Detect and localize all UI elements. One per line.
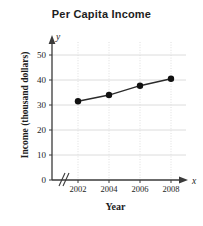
- y-axis-variable-label: y: [55, 32, 61, 42]
- horizontal-gridlines: [52, 55, 186, 155]
- chart-figure: Per Capita Income Income (thousand dolla…: [0, 0, 203, 226]
- plot-area: 0 10 20 30 40 50 2002 2004 2006 2008 y x: [0, 0, 203, 226]
- data-point-2002: [75, 98, 81, 104]
- data-point-2008: [168, 76, 174, 82]
- x-axis: [52, 177, 188, 184]
- y-tick-label-10: 10: [37, 150, 47, 160]
- y-axis: [49, 35, 56, 180]
- y-tick-label-0: 0: [42, 175, 47, 185]
- y-tick-label-20: 20: [37, 125, 47, 135]
- data-line-series: [78, 79, 171, 102]
- vertical-gridlines: [78, 42, 171, 180]
- x-tick-label-2008: 2008: [163, 184, 180, 194]
- data-point-2004: [106, 92, 112, 98]
- x-tick-label-2004: 2004: [101, 184, 119, 194]
- x-axis-variable-label: x: [191, 176, 197, 186]
- x-tick-label-2006: 2006: [132, 184, 149, 194]
- y-tick-label-40: 40: [37, 75, 47, 85]
- x-tick-label-2002: 2002: [70, 184, 87, 194]
- y-tick-label-50: 50: [37, 50, 47, 60]
- y-tick-label-30: 30: [37, 100, 47, 110]
- data-point-2006: [137, 83, 143, 89]
